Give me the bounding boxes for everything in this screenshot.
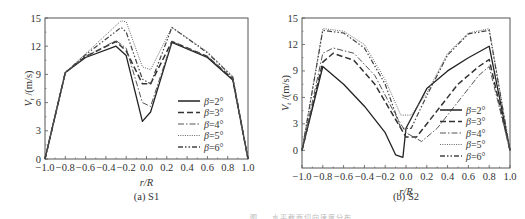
legend-label: β=5°: [465, 139, 486, 150]
y-tick-label: 9: [36, 69, 41, 80]
chart-panel-a: −1.0−0.8−0.6−0.4−0.20.00.20.40.60.81.003…: [23, 13, 255, 204]
y-tick-label: 3: [36, 125, 41, 136]
y-axis-title: Vt /(m/s): [280, 74, 293, 111]
x-tick-label: 1.0: [503, 171, 516, 182]
x-tick-label: 0.6: [462, 171, 475, 182]
legend-label: β=3°: [465, 116, 486, 127]
x-tick-label: −0.6: [76, 162, 95, 173]
legend-label: β=6°: [465, 151, 486, 162]
x-tick-label: −0.8: [56, 162, 75, 173]
x-tick-label: 0.8: [221, 162, 234, 173]
legend-label: β=6°: [203, 142, 224, 153]
subcaption: (b) S2: [393, 191, 419, 203]
x-tick-label: 0.2: [420, 171, 433, 182]
y-tick-label: 0: [36, 154, 41, 165]
figure-caption: 图 … 水平截面切向速度分布: [250, 212, 352, 219]
y-tick-label: 12: [31, 41, 42, 52]
x-tick-label: −0.8: [313, 171, 332, 182]
x-tick-label: 0.0: [140, 162, 153, 173]
subcaption: (a) S1: [134, 191, 159, 203]
chart-panel-b: −1.0−0.8−0.6−0.4−0.20.00.20.40.60.81.003…: [280, 13, 517, 204]
y-axis-title: Vt /(m/s): [23, 70, 36, 107]
x-tick-label: −0.2: [376, 171, 395, 182]
x-tick-label: 0.6: [201, 162, 214, 173]
figure-canvas: −1.0−0.8−0.6−0.4−0.20.00.20.40.60.81.003…: [0, 0, 525, 219]
y-tick-label: 0: [293, 145, 298, 156]
x-tick-label: −0.6: [334, 171, 353, 182]
x-tick-label: 0.0: [399, 171, 412, 182]
y-tick-label: 15: [288, 13, 299, 24]
y-tick-label: 6: [293, 92, 298, 103]
legend-label: β=5°: [203, 130, 224, 141]
x-tick-label: 1.0: [241, 162, 254, 173]
x-tick-label: 0.4: [181, 162, 195, 173]
x-tick-label: 0.8: [483, 171, 496, 182]
legend-label: β=3°: [203, 107, 224, 118]
legend-label: β=4°: [465, 128, 486, 139]
y-tick-label: 15: [31, 13, 42, 24]
x-axis-title: r/R: [140, 177, 154, 188]
x-tick-label: −0.2: [117, 162, 136, 173]
y-tick-label: 6: [36, 97, 41, 108]
x-tick-label: −0.4: [96, 162, 116, 173]
legend-label: β=4°: [203, 119, 224, 130]
legend-label: β=2°: [465, 105, 486, 116]
legend-label: β=2°: [203, 96, 224, 107]
x-tick-label: 0.4: [441, 171, 455, 182]
y-tick-label: 3: [293, 118, 298, 129]
y-tick-label: 12: [288, 39, 299, 50]
x-tick-label: 0.2: [160, 162, 173, 173]
y-tick-label: 9: [293, 65, 298, 76]
x-tick-label: −1.0: [292, 171, 311, 182]
x-tick-label: −0.4: [355, 171, 375, 182]
